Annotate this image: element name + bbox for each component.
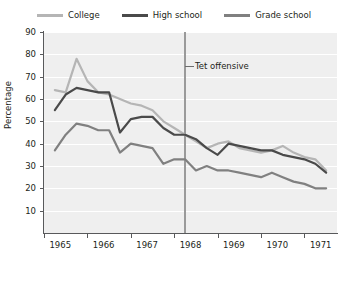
x-tick-label: 1968 (180, 241, 202, 250)
legend-item-high-school: High school (122, 11, 203, 20)
event-leader-line (185, 66, 194, 67)
legend-label-college: College (68, 11, 100, 20)
x-tick (87, 233, 88, 238)
x-tick-label: 1971 (310, 241, 332, 250)
event-label-tet-offensive: Tet offensive (195, 62, 249, 71)
series-lines (44, 32, 337, 233)
y-tick-label: 50 (0, 117, 36, 126)
x-tick (261, 233, 262, 238)
y-tick-label: 30 (0, 162, 36, 171)
legend-label-grade-school: Grade school (255, 11, 311, 20)
legend-swatch-grade-school (224, 14, 250, 17)
y-tick-label: 70 (0, 73, 36, 82)
plot-area (44, 32, 337, 233)
x-tick (131, 233, 132, 238)
y-tick-label: 80 (0, 50, 36, 59)
chart-legend: College High school Grade school (0, 7, 348, 23)
x-tick-label: 1967 (136, 241, 158, 250)
legend-item-college: College (37, 11, 100, 20)
y-tick-label: 90 (0, 28, 36, 37)
x-tick (218, 233, 219, 238)
legend-swatch-college (37, 14, 63, 17)
legend-label-high-school: High school (153, 11, 203, 20)
y-tick-label: 40 (0, 140, 36, 149)
x-tick-label: 1966 (93, 241, 115, 250)
x-tick (304, 233, 305, 238)
y-tick-label: 10 (0, 207, 36, 216)
legend-swatch-high-school (122, 14, 148, 17)
y-tick-label: 60 (0, 95, 36, 104)
x-tick (174, 233, 175, 238)
x-tick (44, 233, 45, 238)
series-line-college (55, 59, 326, 171)
x-tick-label: 1965 (49, 241, 71, 250)
y-tick-label: 20 (0, 184, 36, 193)
x-tick-label: 1969 (223, 241, 245, 250)
legend-item-grade-school: Grade school (224, 11, 311, 20)
x-tick-label: 1970 (266, 241, 288, 250)
chart-container: College High school Grade school Percent… (0, 0, 348, 286)
